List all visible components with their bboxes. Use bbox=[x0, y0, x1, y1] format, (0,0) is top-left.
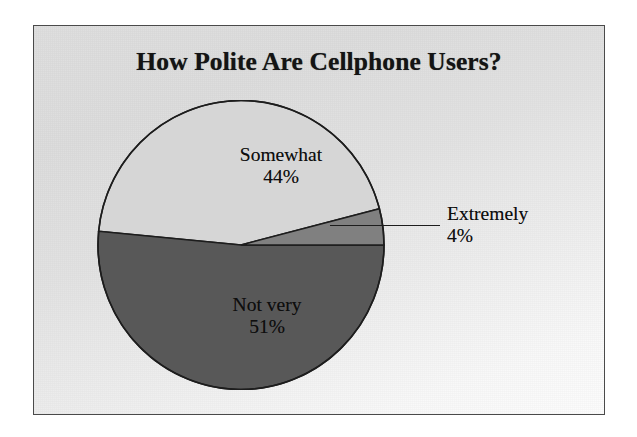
pie-label-extremely: Extremely 4% bbox=[447, 203, 597, 247]
scanned-page: How Polite Are Cellphone Users? Somewhat… bbox=[0, 0, 637, 437]
pie-label-not-very: Not very 51% bbox=[172, 294, 362, 338]
pie-label-somewhat-percent: 44% bbox=[186, 166, 376, 188]
pie-label-not-very-percent: 51% bbox=[172, 316, 362, 338]
pie-label-not-very-name: Not very bbox=[233, 294, 302, 315]
chart-title: How Polite Are Cellphone Users? bbox=[34, 47, 604, 77]
pie-label-somewhat: Somewhat 44% bbox=[186, 144, 376, 188]
pie-label-somewhat-name: Somewhat bbox=[240, 144, 322, 165]
pie-label-extremely-name: Extremely bbox=[447, 203, 597, 225]
chart-frame: How Polite Are Cellphone Users? Somewhat… bbox=[33, 25, 605, 415]
extremely-leader-line bbox=[330, 225, 440, 226]
pie-label-extremely-percent: 4% bbox=[447, 225, 597, 247]
